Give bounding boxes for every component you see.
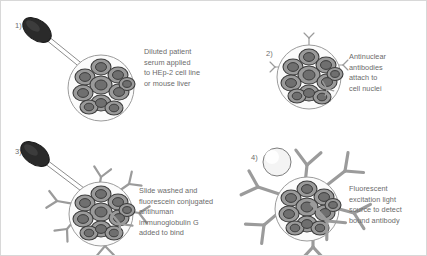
- dropper-icon: [16, 137, 92, 197]
- panel-4-caption: Fluorescent excitation light source to d…: [349, 184, 427, 226]
- panel-1-caption: Diluted patient serum applied to HEp-2 c…: [144, 47, 214, 89]
- light-source-icon: [263, 148, 291, 176]
- panel-2-caption: Antinuclear antibodies attach to cell nu…: [349, 52, 425, 94]
- panel-step-2: 2): [214, 1, 427, 129]
- panel-step-4: 4): [214, 129, 427, 256]
- panel-step-1: 1): [1, 1, 214, 129]
- panel-3-caption: Slide washed and fluorescein conjugated …: [139, 186, 217, 239]
- immunofluorescence-diagram: 1): [0, 0, 427, 256]
- panel-step-3: 3): [1, 129, 214, 256]
